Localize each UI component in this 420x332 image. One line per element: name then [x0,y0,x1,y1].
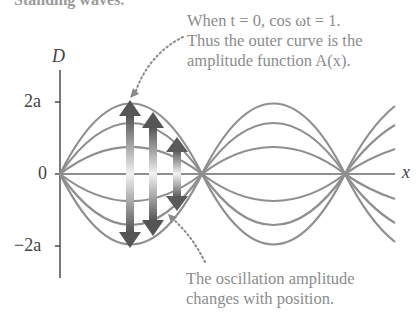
x-axis-label: x [402,162,410,183]
wave-curves [60,104,395,245]
annotation-oscillation-amplitude: The oscillation amplitude changes with p… [186,269,355,309]
y-tick-0: 0 [38,163,47,184]
annotation-top-line1: When t = 0, cos ωt = 1. [187,11,363,31]
y-tick-neg-2a: −2a [14,235,41,256]
oscillation-arrows [119,100,188,248]
annotation-top-line3: amplitude function A(x). [187,51,363,71]
y-axis-label: D [52,46,65,67]
annotation-amplitude-function: When t = 0, cos ωt = 1. Thus the outer c… [187,11,363,71]
annotation-top-line2: Thus the outer curve is the [187,31,363,51]
leader-arrowhead-top [130,88,139,98]
annotation-bottom-line1: The oscillation amplitude [186,269,355,289]
annotation-bottom-line2: changes with position. [186,289,355,309]
y-tick-2a: 2a [24,91,41,112]
y-axis [55,70,60,278]
